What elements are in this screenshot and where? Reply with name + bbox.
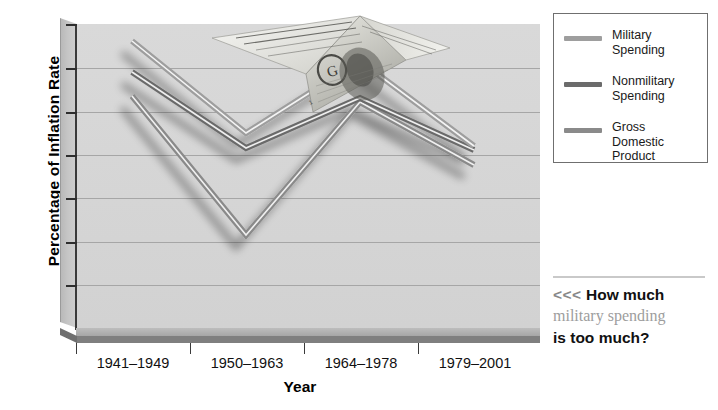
- legend-swatch-nonmilitary-spending: [564, 82, 602, 87]
- legend-label-line1: Gross: [612, 120, 664, 135]
- x-tick-label-1950-1963: 1950–1963: [190, 355, 304, 371]
- x-tick-3: [418, 343, 419, 354]
- chart-figure: Percentage of Inflation Rate 7 6 5 4 3 2…: [0, 0, 718, 410]
- legend-label-line1: Nonmilitary: [612, 74, 675, 89]
- legend-label-line2: Spending: [612, 89, 675, 104]
- legend-swatch-gross-domestic-product: [564, 128, 602, 133]
- legend-label-line1: Military: [612, 28, 665, 43]
- x-axis-title: Year: [60, 378, 540, 396]
- chart-legend: Military Spending Nonmilitary Spending G…: [553, 13, 708, 163]
- legend-label-line2: Spending: [612, 43, 665, 58]
- floor-top: [76, 328, 540, 336]
- legend-label-line3: Product: [612, 149, 664, 164]
- legend-label-line2: Domestic: [612, 135, 664, 150]
- x-tick-1: [190, 343, 191, 354]
- x-tick-2: [304, 343, 305, 354]
- floor-face: [76, 336, 540, 343]
- callout-line-2: military spending: [553, 307, 665, 325]
- legend-label-military-spending: Military Spending: [612, 28, 665, 57]
- series-line-military-spending: [132, 41, 474, 146]
- plot-area: G 1: [60, 18, 540, 343]
- x-tick-label-1979-2001: 1979–2001: [418, 355, 532, 371]
- callout-line-1: <<< How much: [553, 286, 664, 304]
- callout-divider: [553, 276, 705, 278]
- x-tick-0: [76, 343, 77, 354]
- legend-swatch-military-spending: [564, 36, 602, 41]
- legend-label-gross-domestic-product: Gross Domestic Product: [612, 120, 664, 164]
- data-series-group: [60, 18, 540, 343]
- series-line-gross-domestic-product: [132, 96, 474, 235]
- x-tick-label-1941-1949: 1941–1949: [76, 355, 190, 371]
- x-tick-label-1964-1978: 1964–1978: [304, 355, 418, 371]
- chevron-left-icon: <<<: [553, 286, 582, 303]
- callout-line-1-text: How much: [586, 286, 664, 303]
- callout-line-3: is too much?: [553, 329, 649, 347]
- legend-label-nonmilitary-spending: Nonmilitary Spending: [612, 74, 675, 103]
